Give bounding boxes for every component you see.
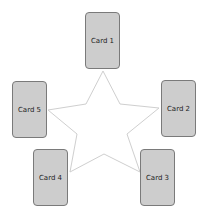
card-1[interactable]: Card 1 (85, 12, 120, 69)
card-3-label: Card 3 (146, 174, 169, 182)
card-4-label: Card 4 (39, 174, 62, 182)
card-4[interactable]: Card 4 (33, 149, 68, 206)
card-2[interactable]: Card 2 (161, 80, 196, 137)
card-3[interactable]: Card 3 (140, 149, 175, 206)
card-1-label: Card 1 (91, 37, 114, 45)
card-5[interactable]: Card 5 (12, 81, 47, 138)
card-5-label: Card 5 (18, 106, 41, 114)
card-2-label: Card 2 (167, 105, 190, 113)
